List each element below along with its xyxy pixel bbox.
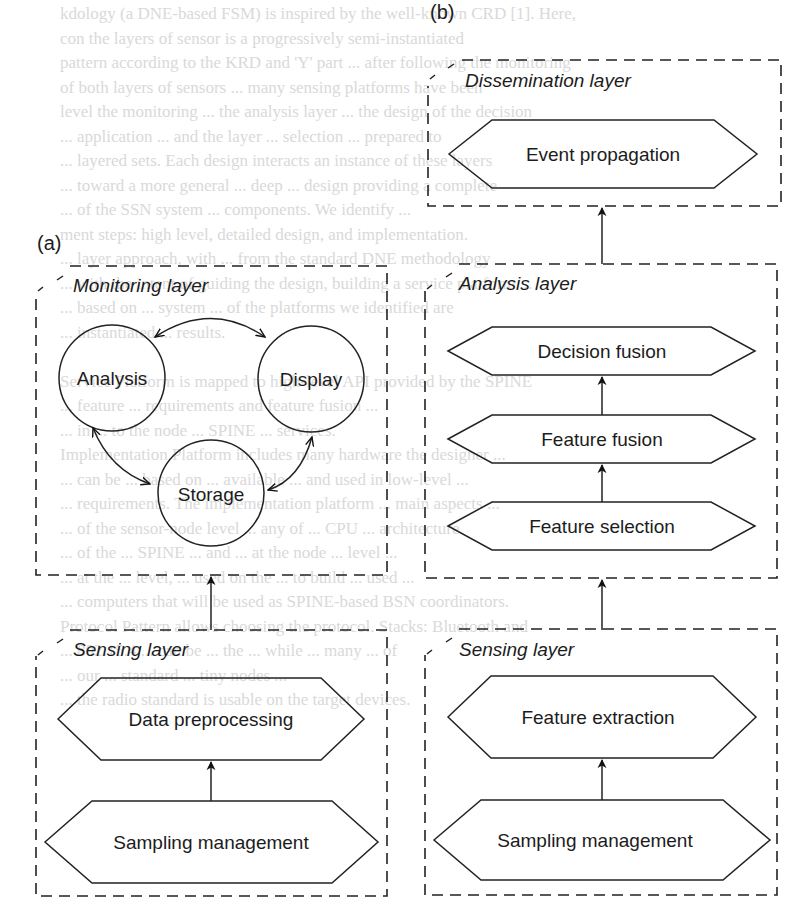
block-data-preprocessing: Data preprocessing [58, 678, 364, 760]
panel-b: (b) Dissemination layer Event propagatio… [425, 1, 781, 895]
node-label: Display [280, 369, 343, 390]
block-feature-fusion: Feature fusion [448, 415, 755, 463]
dissemination-layer: Dissemination layer Event propagation [428, 60, 781, 206]
panel-a: (a) Monitoring layer Analysis Display St… [36, 232, 387, 896]
node-label: Analysis [77, 368, 148, 389]
dissemination-layer-title: Dissemination layer [465, 70, 631, 91]
monitoring-layer-border [36, 266, 387, 575]
diagram-canvas: (a) Monitoring layer Analysis Display St… [0, 0, 812, 923]
block-label: Feature selection [529, 516, 675, 537]
sensing-layer-border [425, 629, 777, 895]
monitoring-layer-corner [38, 276, 63, 291]
block-label: Sampling management [497, 830, 693, 851]
block-event-propagation: Event propagation [449, 120, 757, 188]
monitoring-layer-title: Monitoring layer [73, 275, 209, 296]
sensing-layer-corner [38, 639, 63, 655]
dissemination-layer-corner [430, 64, 454, 79]
sensing-layer-a: Sensing layer Data preprocessing Samplin… [36, 630, 387, 896]
block-label: Decision fusion [538, 341, 667, 362]
block-feature-selection: Feature selection [448, 502, 755, 550]
monitoring-layer: Monitoring layer Analysis Display Storag… [36, 266, 387, 575]
block-label: Event propagation [526, 144, 680, 165]
panel-a-label: (a) [37, 232, 61, 254]
block-feature-extraction: Feature extraction [448, 676, 756, 758]
block-label: Sampling management [113, 832, 309, 853]
block-sampling-management-a: Sampling management [45, 801, 378, 883]
node-storage: Storage [158, 440, 264, 546]
node-display: Display [258, 326, 364, 432]
panel-b-label: (b) [430, 1, 454, 23]
node-label: Storage [178, 484, 245, 505]
node-analysis: Analysis [59, 325, 165, 431]
analysis-layer-title: Analysis layer [458, 273, 577, 294]
edge-display-storage [268, 437, 312, 490]
edge-analysis-display [155, 319, 265, 338]
block-decision-fusion: Decision fusion [448, 327, 755, 375]
analysis-layer: Analysis layer Decision fusion Feature f… [425, 264, 777, 578]
analysis-layer-corner [427, 273, 452, 289]
block-label: Feature fusion [541, 429, 662, 450]
sensing-layer-b: Sensing layer Feature extraction Samplin… [425, 629, 777, 895]
edge-analysis-storage [93, 428, 150, 484]
sensing-layer-title: Sensing layer [73, 639, 189, 660]
sensing-layer-corner [427, 638, 452, 654]
block-label: Feature extraction [521, 707, 674, 728]
block-label: Data preprocessing [129, 709, 294, 730]
sensing-layer-title: Sensing layer [459, 639, 575, 660]
block-sampling-management-b: Sampling management [434, 800, 770, 880]
